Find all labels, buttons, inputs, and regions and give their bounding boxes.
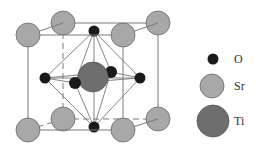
sr-atom: [16, 118, 40, 142]
o-atom: [69, 77, 81, 89]
sr-legend-icon: [200, 74, 224, 98]
sr-atom: [16, 23, 40, 47]
legend-label-ti: Ti: [234, 114, 245, 128]
legend-item-ti: Ti: [197, 105, 245, 137]
perovskite-structure-diagram: O Sr Ti: [0, 0, 260, 149]
o-atom: [89, 122, 100, 133]
legend: O Sr Ti: [197, 52, 245, 137]
o-atom: [135, 73, 146, 84]
ti-atom: [78, 62, 108, 92]
sr-atom: [111, 23, 135, 47]
o-legend-icon: [208, 54, 219, 65]
sr-atom: [51, 107, 75, 131]
o-atom: [40, 73, 51, 84]
legend-item-o: O: [208, 52, 244, 66]
sr-atom: [111, 118, 135, 142]
ti-legend-icon: [197, 105, 229, 137]
legend-label-o: O: [234, 52, 243, 66]
legend-label-sr: Sr: [234, 79, 245, 93]
legend-item-sr: Sr: [200, 74, 245, 98]
